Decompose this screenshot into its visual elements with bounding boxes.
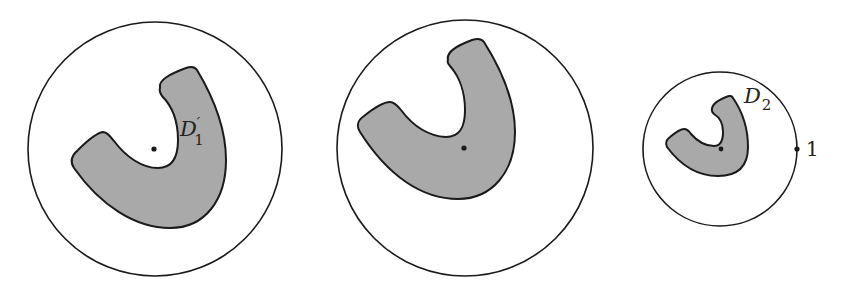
panel-middle — [337, 20, 593, 276]
center-dot — [719, 147, 724, 152]
panel-left: D′1 — [28, 22, 282, 276]
center-dot — [151, 146, 156, 151]
center-dot — [461, 145, 466, 150]
boundary-point-label: 1 — [806, 137, 819, 161]
conformal-map-figure: D′1 1 D2 — [0, 0, 843, 290]
region-d2 — [666, 96, 748, 176]
boundary-point-one — [794, 146, 799, 151]
panel-right: 1 D2 — [643, 72, 819, 226]
region-translated — [358, 39, 515, 199]
